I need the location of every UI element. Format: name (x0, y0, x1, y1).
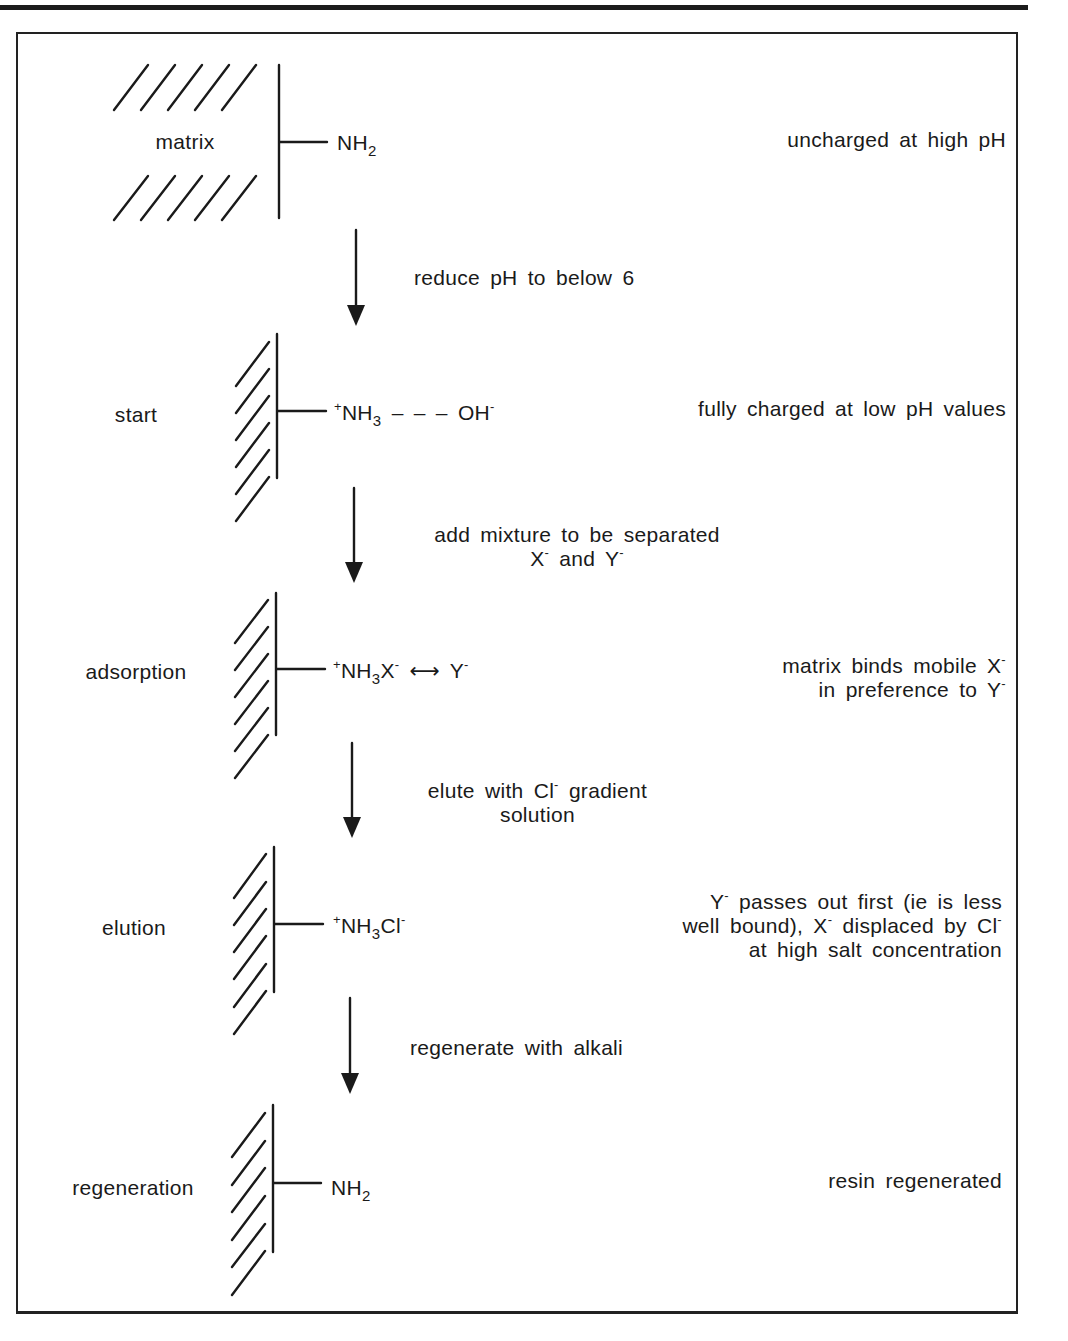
step-label-reduce-ph: reduce pH to below 6 (414, 266, 634, 290)
elution-hatching-icon (234, 854, 266, 1034)
note-start: fully charged at low pH values (698, 397, 1006, 421)
adsorption-hatching-icon (235, 600, 268, 778)
note-matrix: uncharged at high pH (787, 128, 1006, 152)
stage-label-regeneration: regeneration (33, 1176, 233, 1200)
step-label-regenerate: regenerate with alkali (410, 1036, 623, 1060)
stage-label-elution: elution (34, 916, 234, 940)
step-label-add-mixture: add mixture to be separatedX- and Y- (400, 523, 754, 571)
step-label-elute: elute with Cl- gradientsolution (395, 779, 680, 827)
stage-label-start: start (36, 403, 236, 427)
chem-group-start: +NH3 – – – OH- (334, 401, 495, 425)
regeneration-hatching-icon (232, 1113, 265, 1295)
start-hatching-icon (236, 342, 269, 521)
chem-group-elution: +NH3Cl- (333, 914, 406, 938)
chem-group-matrix: NH2 (337, 131, 377, 155)
chem-group-adsorption: +NH3X- ⟷ Y- (333, 659, 469, 683)
chem-group-regeneration: NH2 (331, 1176, 371, 1200)
note-elution: Y- passes out first (ie is lesswell boun… (682, 890, 1002, 962)
note-regeneration: resin regenerated (828, 1169, 1002, 1193)
stage-label-adsorption: adsorption (36, 660, 236, 684)
stage-label-matrix: matrix (85, 130, 285, 154)
note-adsorption: matrix binds mobile X-in preference to Y… (782, 654, 1006, 702)
